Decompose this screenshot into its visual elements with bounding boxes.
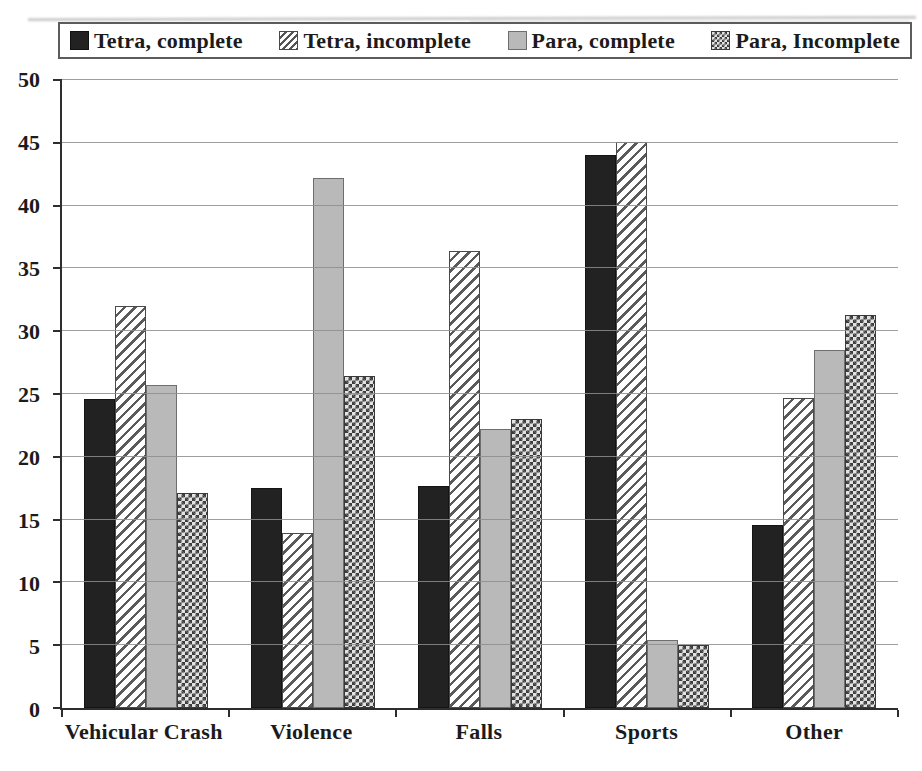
bar-group-sports	[564, 80, 731, 708]
bar-group-vehicular-crash	[62, 80, 229, 708]
plot-area	[60, 80, 898, 710]
bar-tetra-complete-violence	[251, 488, 282, 708]
bar-tetra-complete-sports	[585, 155, 616, 708]
gridline	[62, 79, 898, 80]
gridline	[62, 393, 898, 394]
bar-tetra-incomplete-falls	[449, 251, 480, 708]
gridline	[62, 267, 898, 268]
y-tick-label-35: 35	[18, 258, 40, 280]
legend-label: Tetra, complete	[94, 28, 243, 54]
x-axis-labels: Vehicular CrashViolenceFallsSportsOther	[60, 719, 898, 745]
y-axis-tick	[53, 267, 62, 269]
y-axis-tick	[53, 456, 62, 458]
gridline	[62, 205, 898, 206]
y-tick-label-45: 45	[18, 132, 40, 154]
legend-swatch-checker-icon	[711, 31, 730, 50]
gridline	[62, 456, 898, 457]
x-axis-tick	[897, 710, 899, 717]
x-axis-label-falls: Falls	[395, 719, 563, 745]
x-axis-label-sports: Sports	[563, 719, 731, 745]
bar-group-other	[731, 80, 898, 708]
y-axis-tick	[53, 519, 62, 521]
y-tick-label-5: 5	[29, 636, 40, 658]
bar-tetra-incomplete-sports	[616, 142, 647, 708]
y-axis-labels: 05101520253035404550	[0, 80, 50, 710]
y-axis-tick	[53, 205, 62, 207]
bar-groups	[62, 80, 898, 708]
legend-swatch-solid-icon	[70, 31, 89, 50]
y-axis-tick	[53, 393, 62, 395]
bar-para-complete-vehicular-crash	[146, 385, 177, 708]
bar-para-incomplete-falls	[511, 419, 542, 708]
y-tick-label-15: 15	[18, 510, 40, 532]
y-tick-label-25: 25	[18, 384, 40, 406]
bar-para-complete-falls	[480, 429, 511, 708]
legend-label: Tetra, incomplete	[303, 28, 471, 54]
y-axis-tick	[53, 79, 62, 81]
x-axis-label-vehicular-crash: Vehicular Crash	[60, 719, 228, 745]
y-axis-tick	[53, 707, 62, 709]
bar-group-falls	[396, 80, 563, 708]
bar-tetra-complete-vehicular-crash	[84, 399, 115, 708]
bar-tetra-incomplete-vehicular-crash	[115, 306, 146, 708]
gridline	[62, 142, 898, 143]
legend-label: Para, complete	[532, 28, 675, 54]
gridline	[62, 581, 898, 582]
y-tick-label-10: 10	[18, 573, 40, 595]
gridline	[62, 330, 898, 331]
legend-item-tetra-incomplete: Tetra, incomplete	[279, 28, 471, 54]
y-axis-tick	[53, 142, 62, 144]
legend-item-tetra-complete: Tetra, complete	[70, 28, 243, 54]
bar-group-violence	[229, 80, 396, 708]
bar-para-complete-sports	[647, 640, 678, 708]
legend-swatch-gray-icon	[508, 31, 527, 50]
x-axis-tick	[395, 710, 397, 717]
x-axis-label-other: Other	[730, 719, 898, 745]
gridline	[62, 519, 898, 520]
legend: Tetra, completeTetra, incompletePara, co…	[58, 22, 912, 59]
figure: Tetra, completeTetra, incompletePara, co…	[0, 0, 922, 771]
bar-para-incomplete-sports	[678, 645, 709, 708]
x-axis-tick	[228, 710, 230, 717]
legend-item-para-complete: Para, complete	[508, 28, 675, 54]
y-tick-label-20: 20	[18, 447, 40, 469]
legend-label: Para, Incomplete	[735, 28, 900, 54]
y-tick-label-50: 50	[18, 69, 40, 91]
x-axis-tick	[563, 710, 565, 717]
y-axis-tick	[53, 581, 62, 583]
bar-para-incomplete-violence	[344, 376, 375, 708]
legend-item-para-incomplete: Para, Incomplete	[711, 28, 900, 54]
bar-para-complete-violence	[313, 178, 344, 708]
x-axis-label-violence: Violence	[228, 719, 396, 745]
y-tick-label-40: 40	[18, 195, 40, 217]
x-axis-tick	[730, 710, 732, 717]
legend-swatch-hatch-icon	[279, 31, 298, 50]
bar-para-complete-other	[814, 350, 845, 708]
gridline	[62, 644, 898, 645]
bar-para-incomplete-vehicular-crash	[177, 493, 208, 708]
bar-tetra-complete-other	[752, 525, 783, 708]
y-axis-tick	[53, 330, 62, 332]
y-tick-label-30: 30	[18, 321, 40, 343]
y-tick-label-0: 0	[29, 699, 40, 721]
y-axis-tick	[53, 644, 62, 646]
x-axis-tick	[61, 710, 63, 717]
bar-tetra-incomplete-violence	[282, 533, 313, 708]
bar-para-incomplete-other	[845, 315, 876, 708]
bar-tetra-incomplete-other	[783, 398, 814, 708]
